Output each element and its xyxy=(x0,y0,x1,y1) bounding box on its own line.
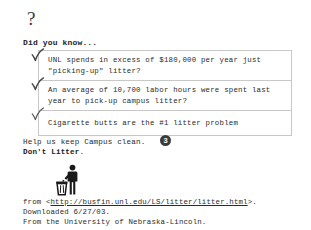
checkmark-icon xyxy=(31,48,45,63)
question-mark-icon: ? xyxy=(27,9,35,28)
circled-number-badge: 3 xyxy=(160,135,171,146)
list-item-label: An average of 10,700 labor hours were sp… xyxy=(48,85,271,106)
list-item: An average of 10,700 labor hours were sp… xyxy=(38,80,292,110)
footer-prefix: from < xyxy=(23,198,51,206)
source-url-link[interactable]: http://busfin.unl.edu/LS/litter/litter.h… xyxy=(51,198,248,206)
closing-line-2: Don't Litter. xyxy=(23,147,145,157)
list-item: UNL spends in excess of $180,000 per yea… xyxy=(38,50,292,80)
checkmark-icon xyxy=(31,107,45,122)
list-item: Cigarette butts are the #1 litter proble… xyxy=(38,110,292,136)
person-using-trash-can-icon xyxy=(54,164,84,197)
dont-litter-text: Don't Litter xyxy=(23,148,79,156)
footer-source-line: from <http://busfin.unl.edu/LS/litter/li… xyxy=(23,197,257,207)
page-title: Did you know... xyxy=(23,38,97,48)
footer-downloaded-date: Downloaded 6/27/03. xyxy=(23,207,257,217)
checkmark-icon xyxy=(31,77,45,92)
fact-list: UNL spends in excess of $180,000 per yea… xyxy=(38,50,292,136)
footer-suffix: >. xyxy=(248,198,257,206)
closing-message: Help us keep Campus clean. Don't Litter. xyxy=(23,137,145,157)
list-item-label: Cigarette butts are the #1 litter proble… xyxy=(48,118,238,129)
closing-line-1: Help us keep Campus clean. xyxy=(23,137,145,147)
source-footer: from <http://busfin.unl.edu/LS/litter/li… xyxy=(23,197,257,227)
closing-line-2-period: . xyxy=(79,148,84,156)
footer-attribution: From the University of Nebraska-Lincoln. xyxy=(23,217,257,227)
list-item-label: UNL spends in excess of $180,000 per yea… xyxy=(48,55,261,76)
litter-awareness-flyer: ? Did you know... UNL spends in excess o… xyxy=(0,0,311,230)
